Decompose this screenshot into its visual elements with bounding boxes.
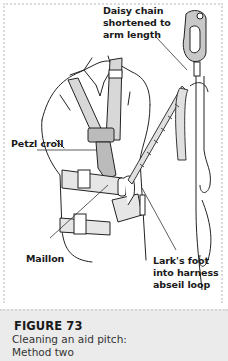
caption-line-1: Cleaning an aid pitch:: [12, 333, 127, 346]
label-daisy-chain: Daisy chain shortened to arm length: [103, 5, 173, 41]
label-petzl-croll: Petzl croll: [11, 138, 63, 150]
caption-text: Cleaning an aid pitch: Method two: [12, 333, 127, 359]
label-larks-foot: Lark's foot into harness abseil loop: [153, 255, 223, 291]
figure-caption: FIGURE 73 Cleaning an aid pitch: Method …: [0, 309, 228, 361]
caption-line-2: Method two: [12, 346, 127, 359]
figure-number: FIGURE 73: [14, 319, 83, 333]
label-maillon: Maillon: [26, 253, 64, 265]
